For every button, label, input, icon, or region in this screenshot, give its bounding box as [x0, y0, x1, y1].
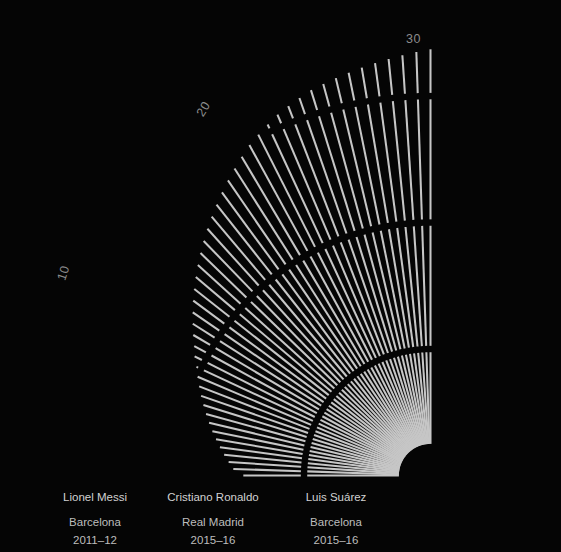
player-club: Barcelona — [256, 514, 416, 532]
chart-background — [0, 0, 561, 552]
radial-chart-canvas — [0, 0, 561, 552]
radial-bar — [416, 52, 417, 93]
radial-bar — [196, 367, 198, 368]
player-annotation: Luis SuárezBarcelona2015–16 — [256, 489, 416, 549]
player-season: 2015–16 — [256, 532, 416, 550]
radial-bar-chart-figure: 102030 Lionel MessiBarcelona2011–12Crist… — [0, 0, 561, 552]
player-name: Luis Suárez — [256, 489, 416, 507]
